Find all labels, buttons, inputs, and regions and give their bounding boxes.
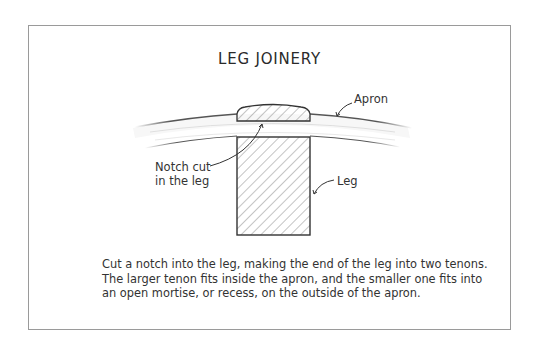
leg-leader-line: [314, 180, 334, 194]
caption-line: Cut a notch into the leg, making the end…: [102, 257, 502, 272]
notch-label-line1: Notch cut: [155, 160, 211, 174]
figure-caption: Cut a notch into the leg, making the end…: [102, 257, 502, 301]
apron-label: Apron: [354, 92, 388, 106]
notch-label-line2: in the leg: [155, 174, 209, 188]
caption-line: an open mortise, or recess, on the outsi…: [102, 286, 502, 301]
leg-body: [237, 137, 310, 235]
leg-label: Leg: [337, 174, 358, 188]
caption-line: The larger tenon fits inside the apron, …: [102, 272, 502, 287]
leg-tenon-outer: [237, 105, 310, 122]
